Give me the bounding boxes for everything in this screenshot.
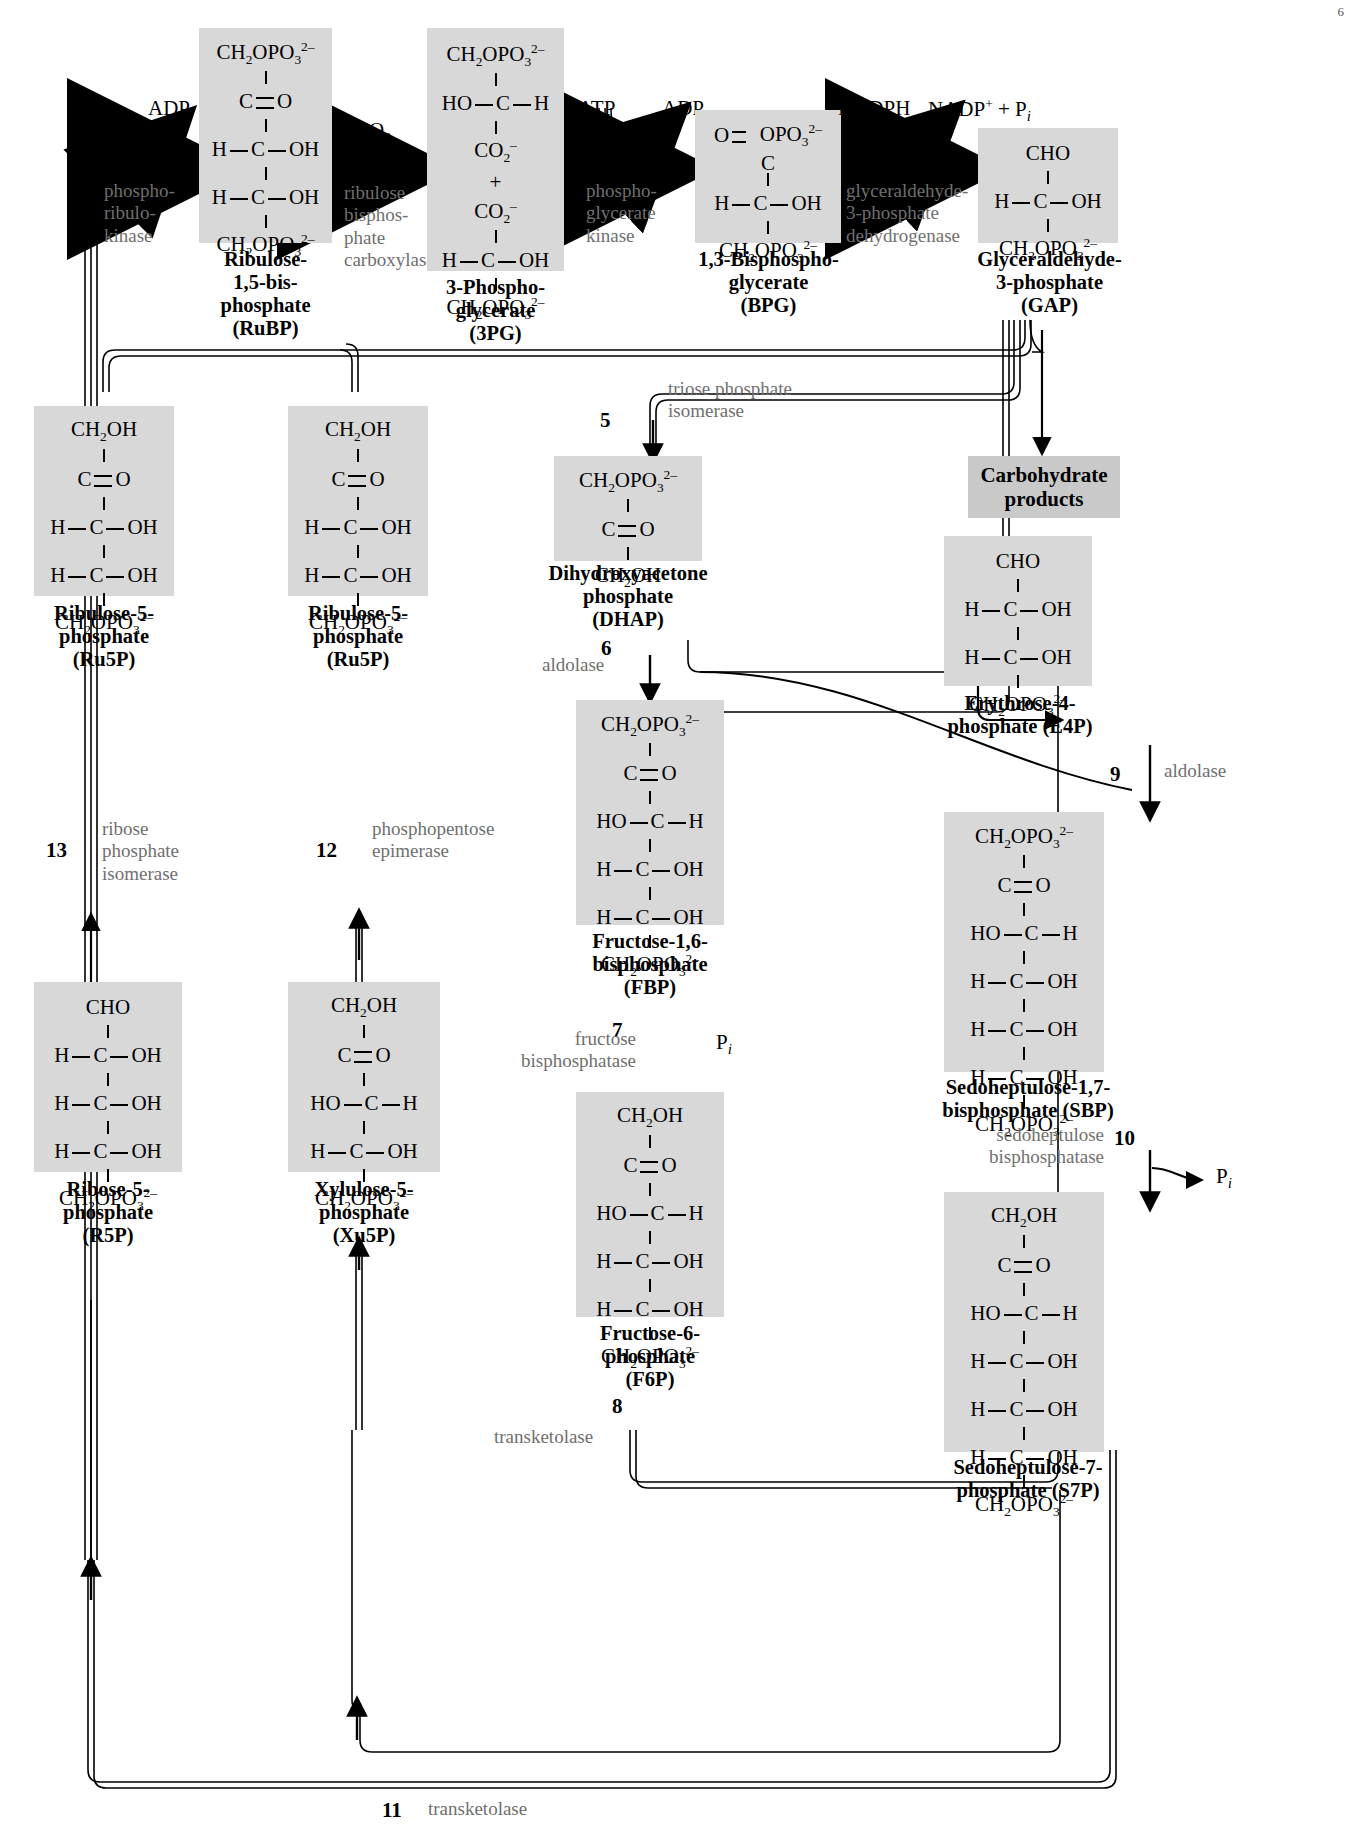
label-rubp-line4: (RuBP) xyxy=(199,317,332,340)
label-f6p-line2: phosphate xyxy=(560,1345,740,1368)
label-fbp-line3: (FBP) xyxy=(560,976,740,999)
label-dhap-line3: (DHAP) xyxy=(528,608,728,631)
label-ru5p-b: Ribulose-5- phosphate (Ru5P) xyxy=(278,602,438,671)
label-fbp-line2: bisphosphate xyxy=(560,953,740,976)
label-xu5p: Xylulose-5- phosphate (Xu5P) xyxy=(278,1178,450,1247)
enzyme-5-line1: triose phosphate xyxy=(668,378,792,400)
molecule-s7p: CH2OH CO HOCH HCOH HCOH HCOH CH2OPO32– xyxy=(944,1192,1104,1452)
label-xu5p-line3: (Xu5P) xyxy=(278,1224,450,1247)
step-number-4: 4 xyxy=(896,126,907,151)
cofactor-atp-1: ATP xyxy=(78,96,115,121)
label-r5p-line2: phosphate xyxy=(24,1201,192,1224)
molecule-fbp: CH2OPO32– CO HOCH HCOH HCOH CH2OPO32– xyxy=(576,700,724,925)
label-r5p-line1: Ribose-5- xyxy=(24,1178,192,1201)
enzyme-5: triose phosphate isomerase xyxy=(668,378,792,423)
enzyme-2-line4: carboxylase xyxy=(344,249,435,271)
enzyme-10-line2: bisphosphatase xyxy=(908,1146,1104,1168)
label-rubp-line2: 1,5-bis- xyxy=(199,271,332,294)
label-dhap-line1: Dihydroxyacetone xyxy=(528,562,728,585)
enzyme-4-line2: 3-phosphate xyxy=(846,202,968,224)
label-sbp: Sedoheptulose-1,7- bisphosphate (SBP) xyxy=(918,1076,1138,1122)
label-fbp: Fructose-1,6- bisphosphate (FBP) xyxy=(560,930,740,999)
enzyme-2: ribulose bisphos- phate carboxylase xyxy=(344,182,435,272)
label-dhap: Dihydroxyacetone phosphate (DHAP) xyxy=(528,562,728,631)
molecule-e4p: CHO HCOH HCOH CH2OPO32– xyxy=(944,536,1092,686)
enzyme-3-line3: kinase xyxy=(586,225,657,247)
label-f6p: Fructose-6- phosphate (F6P) xyxy=(560,1322,740,1391)
label-r5p: Ribose-5- phosphate (R5P) xyxy=(24,1178,192,1247)
enzyme-9: aldolase xyxy=(1164,760,1226,782)
molecule-dhap: CH2OPO32– CO CH2OH xyxy=(554,456,702,561)
label-3pg: 3-Phospho- glycerate (3PG) xyxy=(427,276,564,345)
label-ru5p-a: Ribulose-5- phosphate (Ru5P) xyxy=(24,602,184,671)
enzyme-13-line2: phosphate xyxy=(102,840,179,862)
label-3pg-line1: 3-Phospho- xyxy=(427,276,564,299)
label-bpg: 1,3-Bisphospho- glycerate (BPG) xyxy=(681,248,856,317)
label-gap: Glyceraldehyde- 3-phosphate (GAP) xyxy=(962,248,1137,317)
step-number-5: 5 xyxy=(600,408,611,433)
cofactor-pi-10: Pi xyxy=(1216,1164,1232,1192)
enzyme-13-line3: isomerase xyxy=(102,863,179,885)
enzyme-3: phospho- glycerate kinase xyxy=(586,180,657,247)
label-3pg-line2: glycerate xyxy=(427,299,564,322)
enzyme-4-line3: dehydrogenase xyxy=(846,225,968,247)
label-gap-line3: (GAP) xyxy=(962,294,1137,317)
enzyme-1-line1: phospho- xyxy=(104,180,175,202)
label-xu5p-line1: Xylulose-5- xyxy=(278,1178,450,1201)
cofactor-nadph: NADPH xyxy=(838,96,910,121)
carbohydrate-products-box: Carbohydrate products xyxy=(968,456,1120,518)
label-r5p-line3: (R5P) xyxy=(24,1224,192,1247)
label-rubp-line1: Ribulose- xyxy=(199,248,332,271)
enzyme-1-line2: ribulo- xyxy=(104,202,175,224)
molecule-gap: CHO HCOH CH2OPO32– xyxy=(978,128,1118,243)
label-gap-line1: Glyceraldehyde- xyxy=(962,248,1137,271)
molecule-ru5p-b: CH2OH CO HCOH HCOH CH2OPO32– xyxy=(288,406,428,596)
step-number-9: 9 xyxy=(1110,762,1121,787)
enzyme-3-line2: glycerate xyxy=(586,202,657,224)
label-ru5p-a-line3: (Ru5P) xyxy=(24,648,184,671)
enzyme-3-line1: phospho- xyxy=(586,180,657,202)
molecule-3pg: CH2OPO32– HOCH CO2– + CO2– HCOH CH2OPO32… xyxy=(427,28,564,271)
label-dhap-line2: phosphate xyxy=(528,585,728,608)
products-line2: products xyxy=(980,487,1108,511)
step-number-3: 3 xyxy=(625,126,636,151)
enzyme-7-line2: bisphosphatase xyxy=(488,1050,636,1072)
label-ru5p-b-line2: phosphate xyxy=(278,625,438,648)
enzyme-7-line1: fructose xyxy=(488,1028,636,1050)
enzyme-12: phosphopentose epimerase xyxy=(372,818,494,863)
label-3pg-line3: (3PG) xyxy=(427,322,564,345)
label-fbp-line1: Fructose-1,6- xyxy=(560,930,740,953)
enzyme-10-line1: sedoheptulose xyxy=(908,1124,1104,1146)
step-number-11: 11 xyxy=(382,1798,402,1823)
enzyme-4-line1: glyceraldehyde- xyxy=(846,180,968,202)
enzyme-13: ribose phosphate isomerase xyxy=(102,818,179,885)
molecule-ru5p-a: CH2OH CO HCOH HCOH CH2OPO32– xyxy=(34,406,174,596)
enzyme-10: sedoheptulose bisphosphatase xyxy=(908,1124,1104,1169)
enzyme-1: phospho- ribulo- kinase xyxy=(104,180,175,247)
step-number-1: 1 xyxy=(127,128,138,153)
label-e4p-line2: phosphate (E4P) xyxy=(930,715,1110,738)
cofactor-atp-3: ATP xyxy=(578,96,615,121)
label-bpg-line2: glycerate xyxy=(681,271,856,294)
label-s7p-line1: Sedoheptulose-7- xyxy=(918,1456,1138,1479)
enzyme-2-line2: bisphos- xyxy=(344,204,435,226)
label-e4p: Erythrose-4- phosphate (E4P) xyxy=(930,692,1110,738)
enzyme-5-line2: isomerase xyxy=(668,400,792,422)
molecule-f6p: CH2OH CO HOCH HCOH HCOH CH2OPO32– xyxy=(576,1092,724,1317)
step-number-12: 12 xyxy=(316,838,337,863)
cofactor-adp-1: ADP xyxy=(148,96,190,121)
label-gap-line2: 3-phosphate xyxy=(962,271,1137,294)
enzyme-11: transketolase xyxy=(428,1798,527,1820)
cofactor-nadp-pi: NADP+ + Pi xyxy=(928,96,1031,125)
label-sbp-line2: bisphosphate (SBP) xyxy=(918,1099,1138,1122)
label-ru5p-a-line1: Ribulose-5- xyxy=(24,602,184,625)
label-rubp-line3: phosphate xyxy=(199,294,332,317)
cofactor-pi-7: Pi xyxy=(716,1030,732,1058)
label-rubp: Ribulose- 1,5-bis- phosphate (RuBP) xyxy=(199,248,332,340)
page-number: 6 xyxy=(1338,4,1345,20)
enzyme-1-line3: kinase xyxy=(104,225,175,247)
molecule-rubp: CH2OPO32– CO HCOH HCOH CH2OPO32– xyxy=(199,28,332,243)
enzyme-7: fructose bisphosphatase xyxy=(488,1028,636,1073)
step-number-13: 13 xyxy=(46,838,67,863)
enzyme-6: aldolase xyxy=(542,654,604,676)
